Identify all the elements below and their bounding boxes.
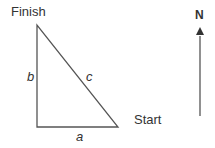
start-label: Start — [134, 113, 161, 126]
right-triangle — [37, 25, 118, 127]
side-b-label: b — [27, 70, 34, 83]
finish-label: Finish — [11, 5, 46, 18]
north-label: N — [195, 9, 204, 21]
side-a-label: a — [76, 130, 83, 143]
side-c-label: c — [86, 70, 93, 83]
north-arrow-head-icon — [196, 27, 204, 35]
